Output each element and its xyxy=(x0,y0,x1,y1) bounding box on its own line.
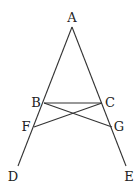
line-AD xyxy=(18,27,72,166)
label-A: A xyxy=(66,10,77,25)
label-E: E xyxy=(124,169,134,184)
line-BG xyxy=(44,103,112,127)
label-D: D xyxy=(8,169,18,184)
line-CF xyxy=(34,103,102,127)
line-AE xyxy=(72,27,126,166)
label-B: B xyxy=(31,95,41,110)
label-F: F xyxy=(21,119,30,134)
label-C: C xyxy=(105,95,115,110)
geometry-diagram: A B C F G D E xyxy=(0,0,139,186)
label-G: G xyxy=(114,119,124,134)
